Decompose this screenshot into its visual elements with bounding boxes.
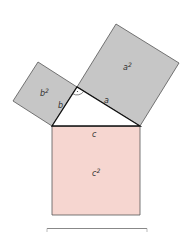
side-b-label: b xyxy=(58,101,63,110)
pythagoras-diagram: a2 b2 c2 a b c xyxy=(0,0,192,236)
side-c-label: c xyxy=(92,130,97,139)
side-a-label: a xyxy=(104,96,109,105)
right-angle-dot xyxy=(77,91,78,92)
